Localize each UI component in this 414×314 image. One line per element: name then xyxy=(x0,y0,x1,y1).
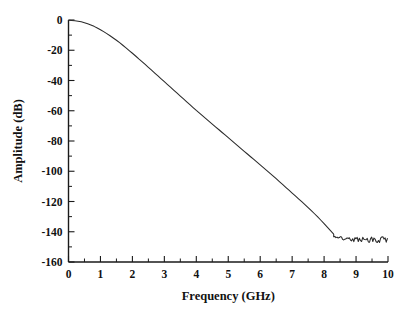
y-tick-label: -140 xyxy=(41,226,62,238)
x-axis-title: Frequency (GHz) xyxy=(182,289,275,303)
chart-figure: 0-20-40-60-80-100-120-140-160 0123456789… xyxy=(0,0,414,314)
y-tick-label: -60 xyxy=(47,105,63,117)
y-tick-label: -40 xyxy=(47,75,63,87)
x-tick-label: 7 xyxy=(289,268,295,280)
y-tick-label: 0 xyxy=(57,14,63,26)
x-tick-label: 1 xyxy=(98,268,104,280)
y-axis-title: Amplitude (dB) xyxy=(11,99,25,183)
y-tick-label: -80 xyxy=(47,135,63,147)
amplitude-vs-frequency-chart: 0-20-40-60-80-100-120-140-160 0123456789… xyxy=(0,0,414,314)
x-tick-label: 8 xyxy=(321,268,327,280)
x-tick-label: 5 xyxy=(225,268,231,280)
x-tick-label: 6 xyxy=(257,268,263,280)
x-tick-label: 2 xyxy=(130,268,136,280)
x-tick-label: 3 xyxy=(161,268,167,280)
x-tick-label: 9 xyxy=(353,268,359,280)
x-tick-label: 4 xyxy=(193,268,199,280)
y-tick-label: -100 xyxy=(41,165,62,177)
x-tick-label: 10 xyxy=(382,268,394,280)
y-tick-label: -120 xyxy=(41,196,62,208)
y-tick-label: -160 xyxy=(41,256,62,268)
x-tick-label: 0 xyxy=(66,268,72,280)
y-tick-label: -20 xyxy=(47,44,63,56)
